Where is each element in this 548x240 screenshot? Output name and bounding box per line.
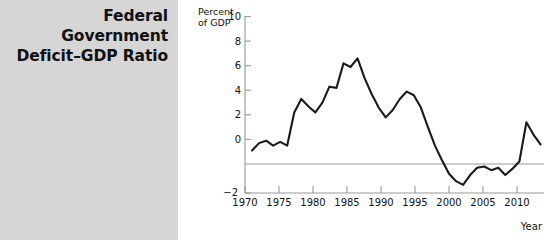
x-axis-title: Year bbox=[521, 221, 542, 232]
y-tick-marks bbox=[245, 17, 251, 193]
x-tick-label-2010: 2010 bbox=[497, 197, 537, 208]
y-tick-label-2: 2 bbox=[219, 109, 241, 120]
y-tick-label-6: 6 bbox=[219, 60, 241, 71]
y-tick-label-8: 8 bbox=[219, 36, 241, 47]
figure-title-line-3: Deficit–GDP Ratio bbox=[8, 46, 168, 66]
deficit-gdp-line bbox=[252, 58, 540, 184]
figure-title-line-1: Federal bbox=[8, 6, 168, 26]
x-tick-marks bbox=[245, 186, 517, 193]
chart-area: Percent of GDP bbox=[178, 0, 548, 240]
y-tick-label-4: 4 bbox=[219, 85, 241, 96]
y-tick-label-0: 0 bbox=[219, 134, 241, 145]
title-panel: Federal Government Deficit–GDP Ratio bbox=[0, 0, 178, 240]
figure-title-line-2: Government bbox=[8, 26, 168, 46]
figure-root: Federal Government Deficit–GDP Ratio Per… bbox=[0, 0, 548, 240]
figure-title: Federal Government Deficit–GDP Ratio bbox=[8, 6, 168, 66]
axes-group bbox=[245, 16, 544, 193]
y-tick-label-10: 10 bbox=[219, 11, 241, 22]
